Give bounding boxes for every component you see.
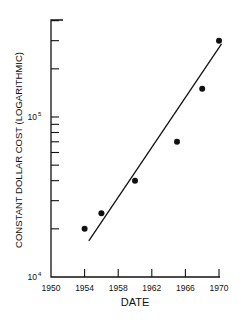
axes [51, 20, 220, 277]
y-tick-label: 10 [28, 112, 38, 122]
x-axis-tick-labels: 195019541958196219661970 [42, 283, 229, 293]
axis-lines [51, 20, 220, 277]
y-axis-tick-labels: 104105 [28, 111, 42, 282]
data-point [82, 226, 88, 232]
data-point [132, 178, 138, 184]
x-axis-label: DATE [121, 296, 150, 308]
chart: 195019541958196219661970 104105 DATE CON… [0, 0, 244, 321]
y-tick-label-exponent: 4 [38, 271, 42, 277]
data-point [216, 38, 222, 44]
y-tick-label-exponent: 5 [38, 111, 42, 117]
x-tick-label: 1950 [42, 283, 61, 293]
x-axis-ticks [85, 269, 219, 277]
trend-line [89, 44, 222, 241]
x-tick-label: 1958 [109, 283, 128, 293]
x-tick-label: 1954 [75, 283, 94, 293]
x-tick-label: 1970 [210, 283, 229, 293]
x-tick-label: 1962 [142, 283, 161, 293]
x-tick-label: 1966 [176, 283, 195, 293]
data-point [199, 86, 205, 92]
data-points [82, 38, 222, 232]
y-tick-label: 10 [28, 272, 38, 282]
data-point [174, 139, 180, 145]
data-point [98, 210, 104, 216]
y-axis-ticks [51, 21, 59, 229]
y-axis-label: CONSTANT DOLLAR COST (LOGARITHMIC) [13, 52, 24, 248]
